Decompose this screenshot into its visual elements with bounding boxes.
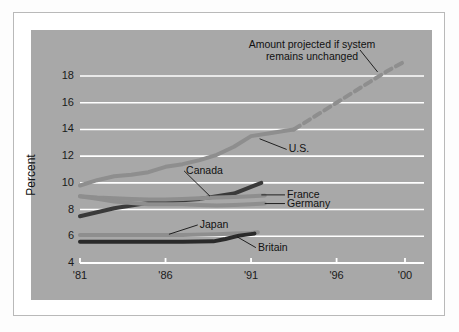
leader-line: [260, 139, 287, 150]
y-tick-label: 16: [34, 96, 74, 108]
x-tick-label: '00: [385, 269, 425, 281]
leader-line: [237, 237, 256, 248]
series-label-britain: Britain: [258, 241, 288, 253]
x-tick-label: '86: [146, 269, 186, 281]
series-lines: [80, 61, 405, 241]
x-tick-label: '96: [317, 269, 357, 281]
y-tick-label: 18: [34, 69, 74, 81]
chart-canvas: [0, 0, 459, 332]
axis-lines: [80, 258, 424, 263]
projection-note-line-1: Amount projected if system: [249, 38, 376, 50]
y-tick-label: 12: [34, 149, 74, 161]
series-label-germany: Germany: [287, 197, 330, 209]
y-tick-label: 4: [34, 256, 74, 268]
series-line-japan: [80, 232, 258, 235]
gridlines: [80, 76, 424, 236]
y-tick-label: 14: [34, 122, 74, 134]
series-label-u-s: U.S.: [289, 142, 309, 154]
y-tick-label: 10: [34, 176, 74, 188]
figure-container: Percent 4681012141618 '81'86'91'96'00 U.…: [0, 0, 459, 332]
y-tick-label: 8: [34, 203, 74, 215]
y-tick-label: 6: [34, 229, 74, 241]
projection-note-line-2: remains unchanged: [266, 50, 358, 62]
series-label-canada: Canada: [186, 164, 223, 176]
x-tick-label: '81: [60, 269, 100, 281]
x-tick-label: '91: [231, 269, 271, 281]
projection-annotation: Amount projected if system remains uncha…: [237, 38, 387, 62]
series-line-u-s-projected: [294, 61, 405, 129]
series-line-u-s: [80, 129, 294, 185]
series-label-japan: Japan: [200, 218, 229, 230]
